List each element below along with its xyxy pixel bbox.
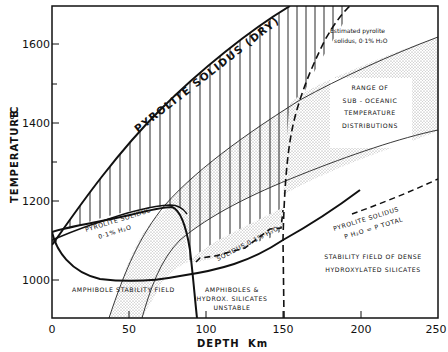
range-label-1: RANGE OF	[352, 84, 389, 91]
x-tick-50: 50	[122, 323, 136, 336]
x-tick-250: 250	[426, 323, 447, 336]
x-axis-title: DEPTH	[197, 338, 240, 349]
x-tick-200: 200	[351, 323, 372, 336]
unstable-label-3: UNSTABLE	[213, 304, 250, 311]
x-axis-unit: Km	[248, 338, 268, 349]
x-tick-150: 150	[273, 323, 294, 336]
estimated-solidus-label-1: Estimated pyrolite	[330, 27, 385, 35]
y-tick-1200: 1200	[22, 195, 50, 208]
y-tick-1000: 1000	[22, 274, 50, 287]
y-tick-1600: 1600	[22, 38, 50, 51]
amphibole-field-label: AMPHIBOLE STABILITY FIELD	[72, 286, 175, 293]
dense-field-label-2: HYDROXYLATED SILICATES	[325, 266, 421, 273]
estimated-solidus-label-2: solidus, 0·1% H₂O	[334, 37, 388, 44]
range-label-3: TEMPERATURE	[343, 109, 396, 116]
unstable-label-2: HYDROX. SILICATES	[196, 295, 267, 302]
y-axis-title: TEMPERATURE	[9, 110, 20, 203]
y-axis-unit: °C	[9, 106, 20, 120]
range-label-4: DISTRIBUTIONS	[342, 122, 398, 129]
x-tick-0: 0	[49, 323, 56, 336]
range-label-2: SUB - OCEANIC	[343, 97, 398, 104]
x-tick-100: 100	[196, 323, 217, 336]
phase-diagram: 1600 1400 1200 1000 0 50 100 150 200 250…	[0, 0, 448, 352]
y-tick-1400: 1400	[22, 117, 50, 130]
unstable-label-1: AMPHIBOLES &	[205, 286, 259, 293]
dense-field-label-1: STABILITY FIELD OF DENSE	[324, 253, 422, 260]
